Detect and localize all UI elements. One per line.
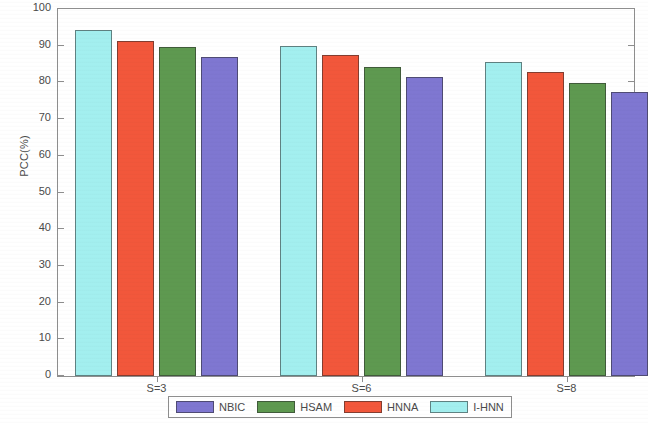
y-tick-mark [58, 228, 64, 229]
bar-chart-figure: PCC(%) 0102030405060708090100 S=3S=6S=8 … [0, 0, 648, 423]
y-tick-mark-right [628, 8, 634, 9]
legend-swatch-nbic [176, 401, 214, 413]
y-tick-label: 50 [39, 185, 51, 197]
y-tick-label: 100 [33, 1, 51, 13]
y-tick-mark [58, 8, 64, 9]
bar-hnna-s6 [322, 55, 359, 376]
y-tick-label: 30 [39, 258, 51, 270]
y-tick-label: 60 [39, 148, 51, 160]
legend-label-hsam: HSAM [300, 401, 332, 413]
y-tick-mark-right [628, 45, 634, 46]
y-tick-mark [58, 338, 64, 339]
legend-entry-hsam: HSAM [257, 401, 332, 413]
y-tick-label: 40 [39, 221, 51, 233]
y-tick-mark [58, 302, 64, 303]
bar-nbic-s3 [201, 57, 238, 376]
x-tick-mark [567, 377, 568, 382]
legend-label-i-hnn: I-HNN [473, 401, 504, 413]
x-axis-group-label: S=8 [557, 382, 577, 394]
legend-swatch-hsam [257, 401, 295, 413]
y-tick-label: 20 [39, 295, 51, 307]
bar-hsam-s3 [159, 47, 196, 376]
bar-hsam-s6 [364, 67, 401, 376]
x-tick-mark [157, 377, 158, 382]
bar-hnna-s8 [527, 72, 564, 376]
y-tick-mark-right [628, 81, 634, 82]
plot-area: 0102030405060708090100 [57, 8, 635, 377]
y-tick-label: 90 [39, 38, 51, 50]
y-tick-mark [58, 192, 64, 193]
x-axis-group-label: S=6 [352, 382, 372, 394]
legend-label-hnna: HNNA [387, 401, 418, 413]
y-tick-label: 0 [45, 368, 51, 380]
y-tick-mark [58, 265, 64, 266]
legend-swatch-hnna [344, 401, 382, 413]
y-tick-mark [58, 375, 64, 376]
legend-label-nbic: NBIC [219, 401, 245, 413]
bar-nbic-s8 [611, 92, 648, 376]
legend-entry-nbic: NBIC [176, 401, 245, 413]
y-tick-mark [58, 81, 64, 82]
y-tick-label: 10 [39, 331, 51, 343]
y-tick-mark [58, 45, 64, 46]
legend-swatch-i-hnn [430, 401, 468, 413]
legend-entry-hnna: HNNA [344, 401, 418, 413]
bar-hsam-s8 [569, 83, 606, 376]
y-tick-label: 80 [39, 74, 51, 86]
chart-legend: NBICHSAMHNNAI-HNN [168, 396, 512, 418]
bar-i-hnn-s3 [75, 30, 112, 376]
bar-hnna-s3 [117, 41, 154, 376]
bar-i-hnn-s8 [485, 62, 522, 376]
x-axis-group-label: S=3 [147, 382, 167, 394]
legend-entry-i-hnn: I-HNN [430, 401, 504, 413]
y-tick-label: 70 [39, 111, 51, 123]
y-axis-title: PCC(%) [18, 96, 30, 216]
bar-i-hnn-s6 [280, 46, 317, 376]
y-tick-mark [58, 118, 64, 119]
x-tick-mark [362, 377, 363, 382]
plot-inner: 0102030405060708090100 [58, 9, 634, 376]
bar-nbic-s6 [406, 77, 443, 376]
y-tick-mark [58, 155, 64, 156]
